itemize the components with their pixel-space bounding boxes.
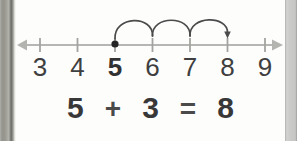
- right-arrow-icon: [272, 40, 283, 51]
- hop-arc-1: [115, 21, 153, 39]
- number-label-6: 6: [145, 53, 159, 81]
- hop-arrow-icon: [224, 32, 231, 39]
- number-label-9: 9: [258, 53, 272, 81]
- start-dot: [111, 40, 118, 47]
- hop-arcs: [115, 20, 228, 39]
- worksheet-page: { "worksheet": { "number_line": { "range…: [0, 0, 297, 141]
- hop-arc-3: [190, 20, 228, 36]
- plus-sign: +: [105, 92, 121, 126]
- number-label-5: 5: [108, 53, 122, 81]
- number-label-3: 3: [33, 53, 47, 81]
- left-arrow-icon: [17, 40, 27, 51]
- addition-equation: 5 + 3 = 8: [16, 91, 285, 126]
- number-label-4: 4: [70, 53, 84, 81]
- equals-sign: =: [180, 92, 196, 126]
- number-label-8: 8: [220, 53, 234, 81]
- equation-sum: 8: [217, 91, 234, 125]
- equation-addend2: 3: [142, 91, 159, 125]
- equation-addend1: 5: [67, 91, 84, 125]
- number-label-7: 7: [183, 53, 197, 81]
- hop-arc-2: [152, 20, 190, 36]
